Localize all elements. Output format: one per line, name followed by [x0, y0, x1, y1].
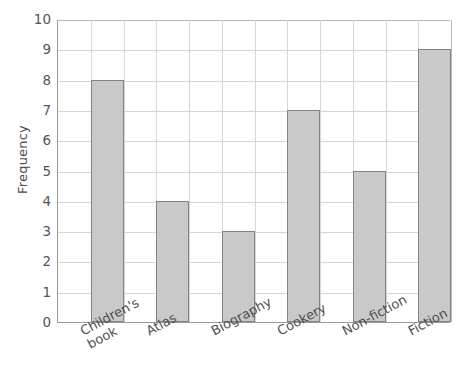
- y-tick-label: 5: [11, 165, 51, 179]
- x-axis-tick-labels: Children's bookAtlasBiographyCookeryNon-…: [57, 326, 450, 385]
- y-tick-label: 0: [11, 316, 51, 330]
- gridline-vertical: [124, 20, 125, 322]
- y-tick-label: 9: [11, 43, 51, 57]
- bar-chart: Frequency 012345678910 Children's bookAt…: [0, 0, 461, 385]
- y-tick-label: 3: [11, 225, 51, 239]
- y-tick-label: 10: [11, 13, 51, 27]
- y-tick-label: 7: [11, 104, 51, 118]
- y-tick-label: 2: [11, 255, 51, 269]
- y-tick-label: 4: [11, 195, 51, 209]
- y-tick-label: 8: [11, 74, 51, 88]
- y-tick-label: 1: [11, 286, 51, 300]
- y-tick-label: 6: [11, 134, 51, 148]
- y-axis-tick-labels: 012345678910: [7, 20, 51, 323]
- bar: [91, 80, 124, 322]
- bar: [353, 171, 386, 323]
